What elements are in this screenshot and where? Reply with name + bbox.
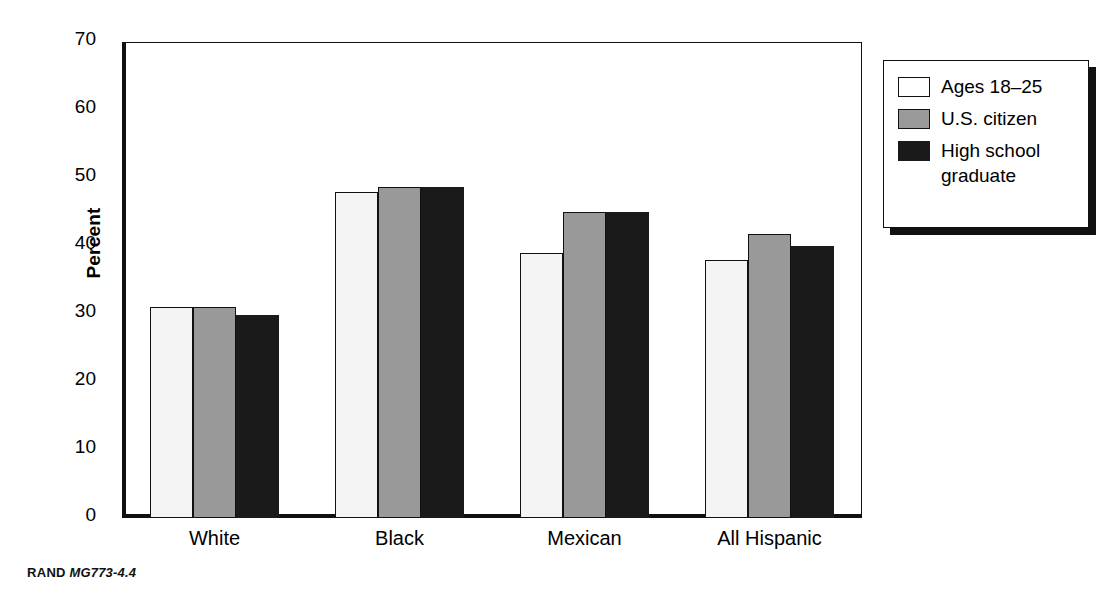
chart-legend: Ages 18–25U.S. citizenHigh school gradua… xyxy=(883,60,1089,228)
legend-swatch-0 xyxy=(898,77,930,97)
bar-all-hispanic-series-0 xyxy=(705,260,748,518)
legend-item-0: Ages 18–25 xyxy=(898,74,1088,99)
bar-chart-figure: Percent 010203040506070 WhiteBlackMexica… xyxy=(0,0,1110,610)
x-axis-label-black: Black xyxy=(307,527,492,550)
y-tick-label: 20 xyxy=(75,368,96,390)
x-axis-label-all-hispanic: All Hispanic xyxy=(677,527,862,550)
y-tick-label: 60 xyxy=(75,96,96,118)
y-tick-label: 30 xyxy=(75,300,96,322)
legend-label-0: Ages 18–25 xyxy=(941,74,1042,99)
legend-label-2: High school graduate xyxy=(941,138,1040,188)
bar-all-hispanic-series-1 xyxy=(748,234,791,518)
bar-white-series-2 xyxy=(236,315,279,518)
bar-black-series-1 xyxy=(378,187,421,518)
y-tick-label: 70 xyxy=(75,28,96,50)
legend-item-2: High school graduate xyxy=(898,138,1088,188)
bars-layer xyxy=(122,42,862,518)
y-tick-label: 50 xyxy=(75,164,96,186)
bar-white-series-1 xyxy=(193,307,236,518)
bar-black-series-2 xyxy=(421,187,464,518)
figure-footer: RAND MG773-4.4 xyxy=(27,565,136,580)
bar-mexican-series-0 xyxy=(520,253,563,518)
bar-white-series-0 xyxy=(150,307,193,518)
bar-all-hispanic-series-2 xyxy=(791,246,834,518)
bar-mexican-series-2 xyxy=(606,212,649,518)
footer-brand: RAND xyxy=(27,565,66,580)
footer-figure-number: MG773-4.4 xyxy=(69,565,136,580)
y-tick-label: 0 xyxy=(85,504,96,526)
y-tick-label: 40 xyxy=(75,232,96,254)
legend-item-1: U.S. citizen xyxy=(898,106,1088,131)
legend-swatch-1 xyxy=(898,109,930,129)
legend-swatch-2 xyxy=(898,141,930,161)
bar-mexican-series-1 xyxy=(563,212,606,518)
x-axis-label-mexican: Mexican xyxy=(492,527,677,550)
legend-label-1: U.S. citizen xyxy=(941,106,1037,131)
bar-black-series-0 xyxy=(335,192,378,518)
x-axis-label-white: White xyxy=(122,527,307,550)
y-tick-label: 10 xyxy=(75,436,96,458)
